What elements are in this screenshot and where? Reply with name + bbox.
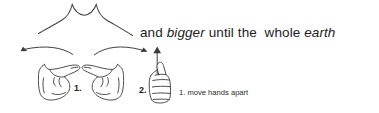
left-curved-arrow <box>24 47 74 54</box>
right-curved-arrow <box>94 47 142 55</box>
instruction-steps: 1. move hands apart 2. raise right hand <box>179 67 249 113</box>
caption-emphasis-bigger: bigger <box>167 25 205 40</box>
caption-emphasis-earth: earth <box>304 25 335 40</box>
right-hand-pointing-left <box>82 65 123 101</box>
step-item-1: 1. move hands apart <box>179 88 249 99</box>
upright-fist-thumb-up <box>149 62 170 103</box>
page-caption: and bigger until the whole earth <box>140 25 335 41</box>
caption-part-3: until the whole <box>205 25 304 40</box>
up-arrow-head <box>153 47 161 54</box>
caption-part-1: and <box>140 25 167 40</box>
step-marker-1: 1. <box>74 83 82 93</box>
spreading-curve-shape <box>39 5 133 36</box>
step-marker-2: 2. <box>139 85 147 95</box>
